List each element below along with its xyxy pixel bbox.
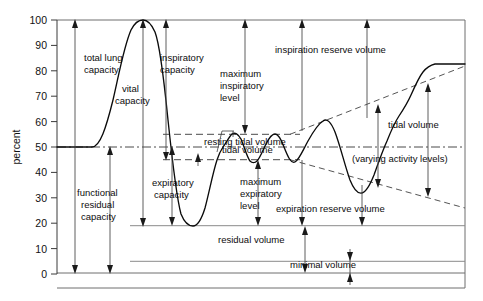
annotation-tidal-volume-right: tidal volume bbox=[375, 83, 439, 197]
label-inspiration-reserve-volume: inspiration reserve volume bbox=[275, 44, 386, 55]
label-expiratory-capacity-line1: expiratory bbox=[152, 177, 194, 188]
y-tick-70: 70 bbox=[35, 90, 47, 102]
label-maximum-expiratory-level-line3: level bbox=[240, 200, 260, 211]
label-maximum-inspiratory-level-line2: inspiratory bbox=[220, 80, 264, 91]
annotation-maximum-inspiratory-level: maximum inspiratory level bbox=[220, 19, 264, 134]
y-tick-50: 50 bbox=[35, 141, 47, 153]
annotation-expiratory-capacity: expiratory capacity bbox=[152, 146, 201, 226]
annotation-minimal-volume: minimal volume bbox=[290, 249, 356, 285]
label-maximum-expiratory-level-line1: maximum bbox=[240, 176, 281, 187]
label-minimal-volume: minimal volume bbox=[290, 259, 356, 270]
label-maximum-inspiratory-level-line3: level bbox=[220, 92, 240, 103]
annotation-inspiratory-capacity: inspiratory capacity bbox=[160, 19, 204, 161]
spirogram-figure: 100 90 80 70 60 50 40 30 20 10 0 percent bbox=[0, 0, 483, 301]
y-tick-0: 0 bbox=[41, 268, 47, 280]
y-axis-title: percent bbox=[10, 129, 22, 164]
label-inspiratory-capacity-line2: capacity bbox=[160, 64, 195, 75]
annotation-varying-activity-levels: (varying activity levels) bbox=[352, 153, 448, 164]
label-residual-volume: residual volume bbox=[218, 234, 285, 245]
label-maximum-inspiratory-level-line1: maximum bbox=[220, 68, 261, 79]
label-functional-residual-capacity-line3: capacity bbox=[81, 211, 116, 222]
y-tick-40: 40 bbox=[35, 166, 47, 178]
y-tick-20: 20 bbox=[35, 217, 47, 229]
label-tidal-volume-left: tidal volume bbox=[222, 144, 273, 155]
annotation-maximum-expiratory-level: maximum expiratory level bbox=[240, 160, 282, 226]
label-maximum-expiratory-level-line2: expiratory bbox=[240, 188, 282, 199]
label-total-lung-capacity-line1: total lung bbox=[84, 52, 123, 63]
spirogram-canvas: 100 90 80 70 60 50 40 30 20 10 0 percent bbox=[0, 0, 483, 301]
label-functional-residual-capacity-line2: residual bbox=[81, 199, 114, 210]
label-vital-capacity-line2: capacity bbox=[115, 95, 150, 106]
annotation-vital-capacity: vital capacity bbox=[115, 19, 150, 227]
label-varying-activity-levels: (varying activity levels) bbox=[352, 153, 448, 164]
y-tick-10: 10 bbox=[35, 243, 47, 255]
annotation-tidal-volume-left: tidal volume bbox=[222, 144, 273, 155]
label-expiratory-capacity-line2: capacity bbox=[154, 189, 189, 200]
label-functional-residual-capacity-line1: functional bbox=[77, 187, 118, 198]
y-tick-80: 80 bbox=[35, 65, 47, 77]
upper-activity-envelope bbox=[290, 66, 465, 134]
y-tick-60: 60 bbox=[35, 116, 47, 128]
y-tick-30: 30 bbox=[35, 192, 47, 204]
y-tick-90: 90 bbox=[35, 39, 47, 51]
label-vital-capacity-line1: vital bbox=[122, 83, 139, 94]
y-axis: 100 90 80 70 60 50 40 30 20 10 0 percent bbox=[10, 14, 57, 280]
label-total-lung-capacity-line2: capacity bbox=[84, 64, 119, 75]
annotation-inspiration-reserve-volume: inspiration reserve volume bbox=[275, 19, 386, 131]
y-tick-100: 100 bbox=[29, 14, 47, 26]
label-tidal-volume-right: tidal volume bbox=[388, 119, 439, 130]
annotation-functional-residual-capacity: functional residual capacity bbox=[77, 146, 118, 274]
label-expiration-reserve-volume: expiration reserve volume bbox=[276, 203, 385, 214]
label-inspiratory-capacity-line1: inspiratory bbox=[160, 52, 204, 63]
annotation-expiration-reserve-volume: expiration reserve volume bbox=[276, 160, 385, 226]
activity-envelopes bbox=[290, 66, 465, 208]
